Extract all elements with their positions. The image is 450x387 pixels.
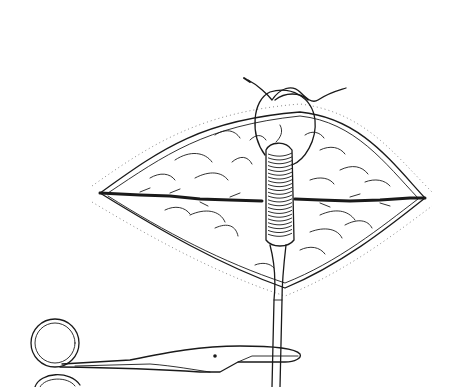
bolster-coil	[268, 195, 292, 198]
suture-loop	[244, 78, 346, 165]
bolster-coil	[268, 165, 292, 168]
bolster-coil	[268, 203, 292, 206]
illustration-canvas	[0, 0, 450, 387]
bolster-coil	[268, 210, 292, 213]
bolster-coil	[268, 157, 292, 160]
bolster-coil	[268, 161, 292, 164]
surgical-illustration	[0, 0, 450, 387]
scissors	[31, 319, 300, 387]
bolster-coil	[268, 233, 292, 236]
bolster-coil	[268, 207, 292, 210]
scissors-pivot	[213, 354, 217, 358]
gauze-bolster	[266, 143, 294, 246]
bolster-coil	[268, 172, 292, 175]
bolster-coil	[268, 187, 292, 190]
bolster-coil	[268, 222, 292, 225]
bolster-coil	[268, 199, 292, 202]
bolster-coil	[268, 226, 292, 229]
incision-line	[100, 188, 425, 207]
bolster-coil	[268, 168, 292, 171]
bolster-coil	[268, 180, 292, 183]
bolster-coil	[268, 184, 292, 187]
bolster-coil	[268, 176, 292, 179]
bolster-coil	[268, 229, 292, 232]
bolster-coil	[268, 153, 292, 156]
bolster-coil	[268, 191, 292, 194]
bolster-coil	[268, 214, 292, 217]
bolster-coil	[268, 218, 292, 221]
